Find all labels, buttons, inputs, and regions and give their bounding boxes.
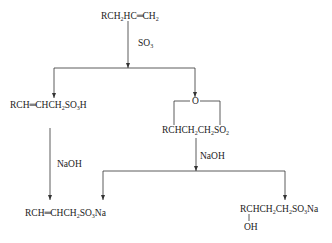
reagent-naoh-left: NaOH — [57, 160, 82, 170]
compound-start: RCH2HC═CH2 — [101, 12, 159, 22]
arrowhead — [194, 166, 198, 171]
ring-bond-right — [200, 101, 220, 125]
arrowhead — [52, 93, 56, 98]
compound-right-product: RCHCH2CH2SO3Na — [240, 205, 318, 215]
compound-sultone: RCHCH2CH2SO2 — [162, 126, 229, 136]
compound-left-product: RCH═CHCH2SO3Na — [25, 209, 106, 219]
compound-left-acid: RCH═CHCH2SO3H — [10, 101, 87, 111]
arrowhead — [48, 195, 52, 200]
arrowhead — [101, 195, 105, 200]
arrowhead — [126, 63, 130, 68]
reagent-so3: SO3 — [138, 39, 153, 49]
substituent-oh: OH — [244, 223, 258, 233]
sultone-oxygen: O — [191, 97, 200, 107]
reagent-naoh-right: NaOH — [200, 152, 225, 162]
ring-bond-left — [174, 101, 190, 125]
arrowhead — [283, 195, 287, 200]
